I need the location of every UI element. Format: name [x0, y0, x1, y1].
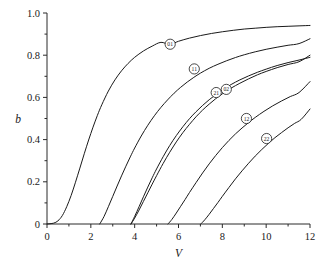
mode-label-22: 22 — [262, 133, 272, 143]
x-tick-label: 4 — [132, 231, 138, 242]
x-axis-ticks — [47, 224, 310, 228]
mode-badge-label: 12 — [244, 116, 250, 122]
mode-badge-label: 21 — [213, 90, 219, 96]
x-tick-label: 10 — [261, 231, 272, 242]
mode-badge-label: 01 — [167, 41, 173, 47]
y-tick-label: 0.6 — [27, 92, 40, 103]
y-tick-label: 1.0 — [27, 8, 40, 19]
mode-label-21: 21 — [211, 87, 221, 97]
x-tick-label: 0 — [44, 231, 49, 242]
x-axis-title: V — [175, 247, 184, 259]
mode-label-layer: 011121021222 — [165, 39, 272, 144]
mode-label-12: 12 — [241, 113, 251, 123]
mode-curve-12 — [168, 82, 310, 224]
y-tick-label: 0.8 — [27, 50, 40, 61]
b-vs-v-mode-chart: 00.20.40.60.81.0 024681012 b V 011121021… — [0, 0, 325, 275]
x-tick-label: 6 — [176, 231, 181, 242]
chart-figure: 00.20.40.60.81.0 024681012 b V 011121021… — [0, 0, 325, 275]
mode-badge-label: 11 — [192, 66, 198, 72]
mode-label-02: 02 — [221, 84, 231, 94]
x-tick-label: 8 — [220, 231, 225, 242]
x-tick-label: 12 — [305, 231, 316, 242]
curve-layer — [47, 25, 310, 224]
mode-label-01: 01 — [165, 39, 175, 49]
mode-label-11: 11 — [189, 64, 199, 74]
y-tick-label: 0 — [35, 219, 40, 230]
axes-layer — [47, 13, 310, 224]
x-axis-tick-labels: 024681012 — [44, 231, 315, 242]
y-tick-label: 0.4 — [27, 134, 41, 145]
mode-badge-label: 02 — [223, 86, 229, 92]
mode-curve-11 — [100, 39, 310, 224]
mode-curve-01 — [47, 25, 310, 224]
mode-badge-label: 22 — [264, 136, 270, 142]
y-tick-label: 0.2 — [27, 176, 40, 187]
y-axis-title: b — [15, 113, 21, 125]
y-axis-tick-labels: 00.20.40.60.81.0 — [27, 8, 41, 230]
x-tick-label: 2 — [88, 231, 93, 242]
y-axis-ticks — [43, 13, 47, 224]
mode-curve-22 — [201, 109, 310, 224]
